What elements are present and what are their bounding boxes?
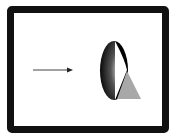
arrow-icon — [33, 68, 73, 73]
diagram-canvas — [0, 0, 176, 137]
